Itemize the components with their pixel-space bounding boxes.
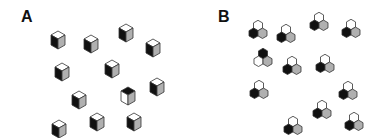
hex-cluster-icon (277, 24, 295, 42)
cube-icon (51, 31, 65, 49)
cube-icon (121, 87, 135, 105)
panel-b-hex-clusters (249, 12, 363, 134)
cube-icon (119, 24, 133, 42)
hex-cluster-icon (339, 81, 357, 99)
panel-a-cubes (51, 24, 164, 138)
hex-cluster-icon (249, 20, 267, 38)
cube-icon (90, 113, 104, 131)
cube-icon (52, 120, 66, 138)
cube-icon (146, 39, 160, 57)
hex-cluster-icon (345, 112, 363, 130)
hex-cluster-icon (284, 116, 302, 134)
hex-cluster-icon (313, 100, 331, 118)
diagram-canvas (0, 0, 379, 138)
hex-cluster-icon (283, 56, 301, 74)
hex-cluster-icon (310, 12, 328, 30)
hex-cluster-icon (254, 48, 272, 66)
cube-icon (105, 60, 119, 78)
cube-icon (84, 35, 98, 53)
cube-icon (55, 63, 69, 81)
hex-cluster-icon (342, 19, 360, 37)
cube-icon (72, 91, 86, 109)
hex-cluster-icon (250, 80, 268, 98)
hex-cluster-icon (316, 54, 334, 72)
cube-icon (127, 113, 141, 131)
cube-icon (150, 78, 164, 96)
